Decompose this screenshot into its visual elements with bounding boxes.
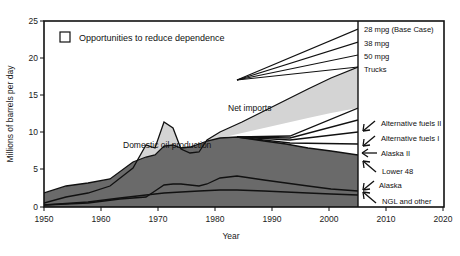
callout-alternative-fuels-1: Alternative fuels I [381, 134, 439, 143]
oil-dependence-area-chart: 25 20 15 10 5 0 Millions of barrels per … [0, 0, 460, 256]
x-tick-1970: 1970 [149, 214, 168, 224]
x-tick-1980: 1980 [206, 214, 225, 224]
callout-50-mpg: 50 mpg [364, 52, 389, 61]
y-tick-0: 0 [33, 202, 38, 212]
legend-swatch-opportunities [60, 32, 70, 42]
inline-label-domestic-oil-production: Domestic oil production [123, 140, 212, 150]
x-tick-1950: 1950 [35, 214, 54, 224]
x-axis-title: Year [222, 231, 239, 241]
y-axis-title: Millions of barrels per day [5, 65, 15, 163]
x-tick-2000: 2000 [320, 214, 339, 224]
legend: Opportunities to reduce dependence [60, 32, 225, 43]
y-tick-20: 20 [29, 53, 39, 63]
x-tick-2020: 2020 [434, 214, 453, 224]
x-tick-1990: 1990 [263, 214, 282, 224]
callout-38-mpg: 38 mpg [364, 39, 389, 48]
y-tick-5: 5 [33, 164, 38, 174]
y-tick-15: 15 [29, 90, 39, 100]
callout-alaska-2: Alaska II [381, 149, 410, 158]
x-tick-1960: 1960 [92, 214, 111, 224]
y-tick-10: 10 [29, 127, 39, 137]
callout-ngl-and-other: NGL and other [382, 197, 432, 206]
callout-alaska: Alaska [379, 181, 403, 190]
y-tick-25: 25 [29, 16, 39, 26]
callout-lower-48: Lower 48 [382, 167, 413, 176]
callout-alternative-fuels-2: Alternative fuels II [381, 119, 441, 128]
legend-label-opportunities: Opportunities to reduce dependence [79, 33, 225, 43]
callout-trucks: Trucks [364, 65, 387, 74]
chart-figure: 25 20 15 10 5 0 Millions of barrels per … [0, 0, 460, 256]
x-tick-2010: 2010 [377, 214, 396, 224]
callout-28-mpg-base-case: 28 mpg (Base Case) [364, 25, 434, 34]
inline-label-net-imports: Net imports [228, 103, 271, 113]
